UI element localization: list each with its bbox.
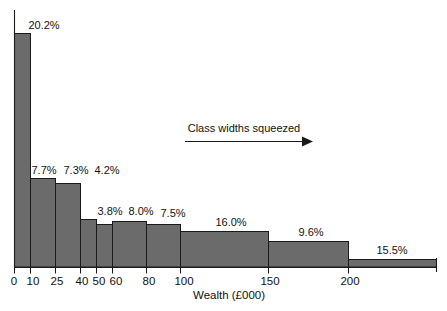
bar-0-10[interactable] bbox=[15, 34, 31, 268]
arrow-right-icon bbox=[302, 137, 313, 147]
x-axis-tick-labels: 0 10 25 40 50 60 80 100 150 200 bbox=[11, 275, 360, 287]
bar-150-200[interactable] bbox=[269, 242, 349, 268]
bar-80-100[interactable] bbox=[147, 225, 181, 268]
chart-page: 0 10 25 40 50 60 80 100 150 200 20.2% 7.… bbox=[0, 0, 447, 311]
x-tick-label-25: 25 bbox=[51, 275, 64, 287]
value-label-10-25: 7.7% bbox=[31, 164, 56, 176]
x-tick-label-40: 40 bbox=[76, 275, 89, 287]
bar-40-50[interactable] bbox=[81, 220, 97, 268]
x-tick-label-0: 0 bbox=[11, 275, 17, 287]
bar-60-80[interactable] bbox=[113, 222, 147, 268]
value-label-200-plus: 15.5% bbox=[376, 244, 407, 256]
value-label-0-10: 20.2% bbox=[28, 19, 59, 31]
bar-100-150[interactable] bbox=[181, 232, 269, 268]
bar-200-plus[interactable] bbox=[349, 260, 437, 268]
x-tick-label-50: 50 bbox=[93, 275, 106, 287]
x-tick-label-10: 10 bbox=[27, 275, 40, 287]
x-tick-label-80: 80 bbox=[143, 275, 156, 287]
x-tick-label-100: 100 bbox=[174, 275, 193, 287]
value-label-80-100: 7.5% bbox=[160, 207, 185, 219]
x-tick-label-150: 150 bbox=[260, 275, 279, 287]
value-label-60-80: 8.0% bbox=[128, 205, 153, 217]
bar-series bbox=[15, 34, 437, 268]
value-label-50-60: 3.8% bbox=[97, 205, 122, 217]
value-label-25-40: 7.3% bbox=[63, 164, 88, 176]
bar-10-25[interactable] bbox=[31, 179, 56, 268]
x-axis-ticks bbox=[15, 268, 349, 274]
annotation-label: Class widths squeezed bbox=[188, 122, 301, 134]
x-axis-title: Wealth (£000) bbox=[193, 289, 265, 301]
x-tick-label-200: 200 bbox=[340, 275, 359, 287]
value-label-150-200: 9.6% bbox=[298, 226, 323, 238]
bar-50-60[interactable] bbox=[97, 225, 113, 268]
value-label-40-50: 4.2% bbox=[94, 164, 119, 176]
class-widths-squeezed-annotation: Class widths squeezed bbox=[185, 122, 313, 147]
x-tick-label-60: 60 bbox=[110, 275, 123, 287]
bar-25-40[interactable] bbox=[56, 184, 81, 268]
value-label-100-150: 16.0% bbox=[215, 216, 246, 228]
histogram-chart: 0 10 25 40 50 60 80 100 150 200 20.2% 7.… bbox=[0, 0, 447, 311]
